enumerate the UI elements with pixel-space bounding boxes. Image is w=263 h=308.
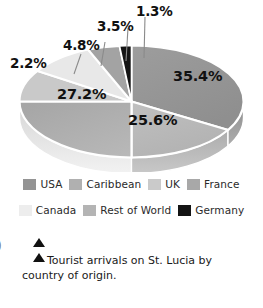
caption-text: Tourist arrivals on St. Lucia by country… bbox=[47, 253, 252, 283]
legend-swatch-rest-of-world bbox=[83, 205, 96, 216]
legend-item-canada[interactable]: Canada bbox=[19, 204, 77, 216]
pie-slices bbox=[19, 45, 243, 157]
slice-canada bbox=[20, 102, 132, 158]
pie-chart: 35.4% 25.6% 27.2% 2.2% 4.8% 3.5% 1.3% bbox=[0, 0, 263, 172]
legend-label-uk: UK bbox=[165, 178, 180, 190]
legend-item-uk[interactable]: UK bbox=[148, 178, 180, 190]
caption-line-2: country of origin. bbox=[22, 268, 252, 283]
legend-label-usa: USA bbox=[40, 178, 62, 190]
slice-label-rest-of-world: 3.5% bbox=[97, 18, 134, 34]
slice-label-france: 4.8% bbox=[63, 37, 100, 53]
slice-label-germany: 1.3% bbox=[136, 3, 173, 19]
legend-swatch-usa bbox=[23, 179, 36, 190]
legend-label-caribbean: Caribbean bbox=[86, 178, 141, 190]
caption-line-1: Tourist arrivals on St. Lucia by bbox=[47, 254, 212, 267]
legend-item-germany[interactable]: Germany bbox=[178, 204, 244, 216]
slice-label-canada: 27.2% bbox=[57, 86, 106, 102]
legend-swatch-uk bbox=[148, 179, 161, 190]
legend-swatch-germany bbox=[178, 205, 191, 216]
triangle-up-icon-secondary bbox=[33, 253, 45, 262]
legend-item-usa[interactable]: USA bbox=[23, 178, 62, 190]
slice-label-usa: 35.4% bbox=[173, 68, 222, 84]
page-edge-glyph: ) bbox=[0, 236, 2, 254]
slice-label-uk: 2.2% bbox=[10, 55, 47, 71]
triangle-up-icon bbox=[33, 238, 45, 247]
figure-caption: ) Tourist arrivals on St. Lucia by count… bbox=[0, 232, 263, 308]
legend-label-rest-of-world: Rest of World bbox=[100, 204, 171, 216]
legend-label-france: France bbox=[204, 178, 240, 190]
legend-item-rest-of-world[interactable]: Rest of World bbox=[83, 204, 171, 216]
legend-item-caribbean[interactable]: Caribbean bbox=[69, 178, 141, 190]
legend-label-canada: Canada bbox=[36, 204, 77, 216]
legend-swatch-caribbean bbox=[69, 179, 82, 190]
slice-label-caribbean: 25.6% bbox=[128, 112, 177, 128]
legend-swatch-canada bbox=[19, 205, 32, 216]
chart-figure: 35.4% 25.6% 27.2% 2.2% 4.8% 3.5% 1.3% US… bbox=[0, 0, 263, 308]
legend-label-germany: Germany bbox=[195, 204, 244, 216]
legend-row-1: USA Caribbean UK France bbox=[0, 174, 263, 194]
chart-legend: USA Caribbean UK France Canada Res bbox=[0, 172, 263, 226]
legend-swatch-france bbox=[187, 179, 200, 190]
legend-row-2: Canada Rest of World Germany bbox=[0, 200, 263, 220]
legend-item-france[interactable]: France bbox=[187, 178, 240, 190]
